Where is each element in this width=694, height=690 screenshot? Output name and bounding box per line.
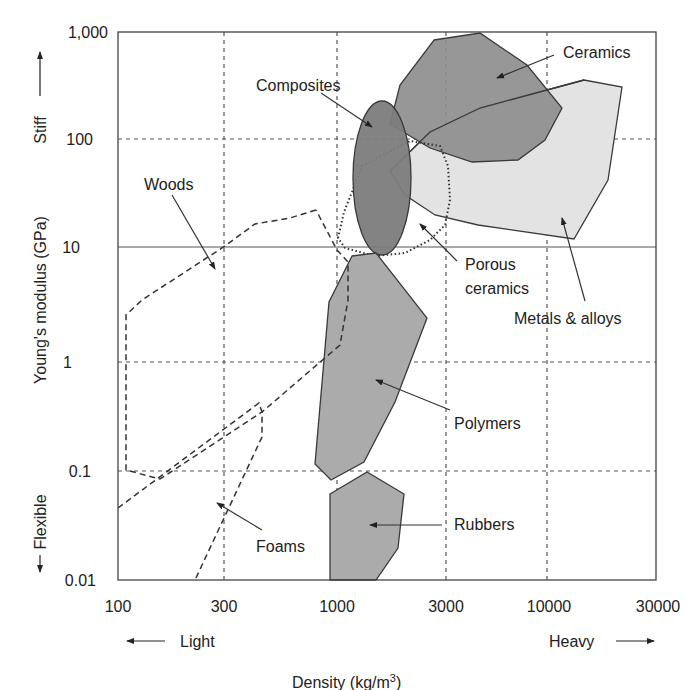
region-composites — [353, 101, 411, 255]
region-rubbers — [330, 472, 404, 580]
x-axis-title-main: Density (kg/m — [292, 674, 390, 690]
y-tick-1: 1 — [63, 354, 72, 371]
y-tick-100: 100 — [66, 131, 93, 148]
region-woods — [126, 210, 348, 479]
light-label: Light — [180, 633, 215, 650]
arrow-composites — [321, 93, 372, 127]
label-porous-2: ceramics — [465, 280, 529, 297]
flexible-label: Flexible — [32, 494, 49, 549]
label-woods: Woods — [144, 176, 194, 193]
label-rubbers: Rubbers — [454, 516, 514, 533]
x-axis-title: Density (kg/m3) — [292, 672, 401, 690]
x-tick-300: 300 — [211, 598, 238, 615]
y-axis-title: Young's modulus (GPa) — [32, 216, 49, 384]
x-tick-3000: 3000 — [428, 598, 464, 615]
stiff-label: Stiff — [32, 116, 49, 144]
x-tick-100: 100 — [105, 598, 132, 615]
label-porous-1: Porous — [465, 256, 516, 273]
region-foams — [118, 403, 262, 580]
arrow-woods — [172, 195, 215, 269]
heavy-label: Heavy — [549, 633, 594, 650]
x-tick-1000: 1000 — [319, 598, 355, 615]
arrow-foams — [217, 503, 262, 530]
x-axis-title-close: ) — [396, 674, 401, 690]
label-polymers: Polymers — [454, 415, 521, 432]
label-composites: Composites — [256, 77, 340, 94]
x-tick-10000: 10000 — [527, 598, 572, 615]
ashby-chart: Ceramics Composites Woods Porous ceramic… — [0, 0, 694, 690]
label-metals-alloys: Metals & alloys — [514, 310, 622, 327]
y-tick-10: 10 — [62, 239, 80, 256]
label-foams: Foams — [256, 538, 305, 555]
label-ceramics: Ceramics — [563, 44, 631, 61]
y-tick-0.1: 0.1 — [69, 463, 91, 480]
y-tick-0.01: 0.01 — [65, 572, 96, 589]
x-tick-30000: 30000 — [636, 598, 681, 615]
y-tick-1000: 1,000 — [68, 24, 108, 41]
region-polymers — [315, 253, 427, 480]
